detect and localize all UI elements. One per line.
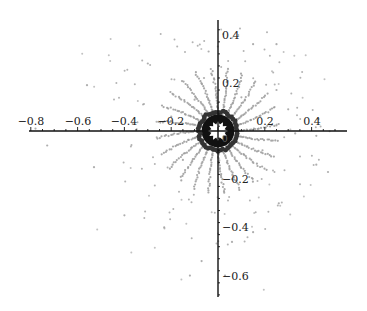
x-tick-label: −0.2 [158,115,185,128]
svg-text:0: 0 [222,134,228,144]
y-tick-label: −0.4 [222,221,249,234]
scatter-chart: 0 −0.8 −0.6 −0.4 −0.2 0.2 0.4 0.4 0.2 −0… [0,0,367,311]
data-points [34,28,330,291]
tick-labels: −0.8 −0.6 −0.4 −0.2 0.2 0.4 0.4 0.2 −0.2… [18,29,321,283]
y-tick-label: −0.6 [222,270,249,283]
y-tick-label: −0.2 [222,173,249,186]
y-tick-label: 0.2 [222,77,240,90]
x-tick-label: 0.2 [256,115,274,128]
y-tick-label: 0.4 [222,29,240,42]
x-tick-label: −0.6 [65,115,92,128]
axes [29,20,347,297]
x-tick-label: −0.8 [18,115,45,128]
x-tick-label: 0.4 [303,115,321,128]
x-tick-label: −0.4 [111,115,138,128]
